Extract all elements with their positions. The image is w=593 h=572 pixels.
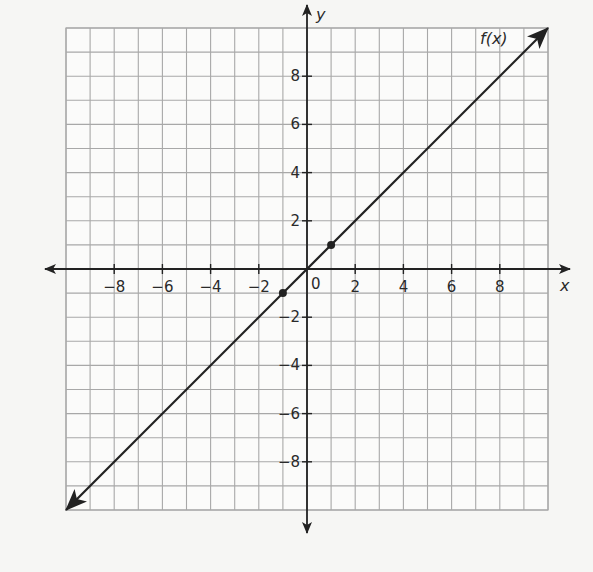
x-tick-label: −4 xyxy=(200,278,222,296)
y-tick-label: 2 xyxy=(290,212,300,230)
x-tick-label: −2 xyxy=(248,278,270,296)
x-tick-label: 2 xyxy=(350,278,360,296)
y-tick-label: −2 xyxy=(278,308,300,326)
coordinate-plane: −8−6−4−22468−8−6−4−224680 f(x) xy xyxy=(0,0,593,572)
y-tick-label: −6 xyxy=(278,405,300,423)
y-tick-label: 4 xyxy=(290,164,300,182)
y-axis-label: y xyxy=(315,5,326,24)
data-point xyxy=(279,289,287,297)
data-point xyxy=(327,241,335,249)
x-tick-label: 6 xyxy=(447,278,457,296)
x-tick-label: −8 xyxy=(103,278,125,296)
y-tick-label: 6 xyxy=(290,115,300,133)
x-tick-label: −6 xyxy=(151,278,173,296)
series-label: f(x) xyxy=(480,29,508,48)
origin-label: 0 xyxy=(311,275,321,293)
y-tick-label: −8 xyxy=(278,453,300,471)
y-tick-label: 8 xyxy=(290,67,300,85)
x-tick-label: 4 xyxy=(399,278,409,296)
x-axis-label: x xyxy=(559,276,570,295)
x-tick-label: 8 xyxy=(495,278,505,296)
y-tick-label: −4 xyxy=(278,356,300,374)
